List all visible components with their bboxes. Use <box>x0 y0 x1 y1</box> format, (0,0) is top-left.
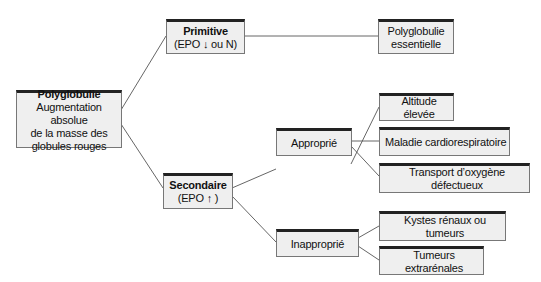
node-inapproprie: Inapproprié <box>276 229 359 257</box>
node-label: Inapproprié <box>291 238 344 251</box>
node-polyglobulie-essentielle: Polyglobulie essentielle <box>378 19 454 54</box>
node-label: Approprié <box>291 137 337 150</box>
node-line: essentielle <box>391 38 441 51</box>
node-label: Transport d’oxygène défectueux <box>385 166 529 192</box>
node-maladie-cardiorespiratoire: Maladie cardiorespiratoire <box>379 127 510 156</box>
edge-inapproprie-kystes <box>358 226 379 238</box>
node-line: globules rouges <box>32 140 107 153</box>
node-transport-oxygene: Transport d’oxygène défectueux <box>379 163 530 193</box>
edge-approprie-altitude <box>351 107 379 164</box>
node-title: Secondaire <box>169 179 226 192</box>
node-approprie: Approprié <box>276 128 352 156</box>
edge-root-secondaire <box>121 124 163 188</box>
edge-approprie-transport <box>351 146 379 176</box>
node-subtitle: (EPO ↓ ou N) <box>174 38 237 51</box>
node-label: Altitude élevée <box>385 95 453 121</box>
edge-inapproprie-tumeurs <box>358 246 379 260</box>
node-label: Kystes rénaux ou tumeurs <box>385 214 505 240</box>
node-kystes-renaux: Kystes rénaux ou tumeurs <box>379 211 506 241</box>
node-polyglobulie: Polyglobulie Augmentation absolue de la … <box>16 90 122 148</box>
node-line: de la masse des <box>30 127 107 140</box>
node-altitude-elevee: Altitude élevée <box>379 93 454 121</box>
node-title: Polyglobulie <box>38 88 101 101</box>
node-secondaire: Secondaire (EPO ↑ ) <box>163 173 233 209</box>
node-primitive: Primitive (EPO ↓ ou N) <box>166 19 245 54</box>
node-line: Polyglobulie <box>388 25 445 38</box>
edge-root-primitive <box>121 36 166 110</box>
node-subtitle: (EPO ↑ ) <box>178 192 219 205</box>
node-line: Augmentation absolue <box>17 101 121 127</box>
edge-secondaire-approprie <box>232 169 276 188</box>
node-label: Tumeurs extrarénales <box>385 249 483 275</box>
edge-secondaire-inapproprie <box>232 196 276 242</box>
node-title: Primitive <box>183 25 228 38</box>
node-label: Maladie cardiorespiratoire <box>385 136 506 149</box>
node-tumeurs-extrarenales: Tumeurs extrarénales <box>379 246 484 275</box>
